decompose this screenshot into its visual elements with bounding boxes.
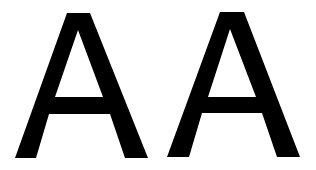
letter-a-1: [0, 0, 160, 170]
letter-a-2: [156, 0, 316, 170]
